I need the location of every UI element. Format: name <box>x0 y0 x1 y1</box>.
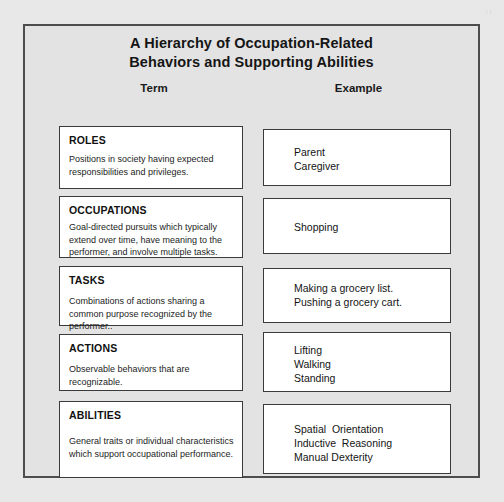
example-text: Parent Caregiver <box>294 145 442 173</box>
column-header-term: Term <box>62 82 246 94</box>
example-text: Lifting Walking Standing <box>294 343 442 385</box>
example-line: Standing <box>294 371 442 385</box>
term-description: Combinations of actions sharing a common… <box>69 295 235 333</box>
term-cell-roles: ROLES Positions in society having expect… <box>59 126 243 189</box>
example-line: Manual Dexterity <box>294 450 442 464</box>
page-edge-bleed-text: | | <box>486 8 504 16</box>
term-cell-tasks: TASKS Combinations of actions sharing a … <box>59 266 243 326</box>
term-title: ACTIONS <box>69 342 117 354</box>
figure-title-line-2: Behaviors and Supporting Abilities <box>25 53 478 72</box>
example-cell-occupations: Shopping <box>263 198 451 254</box>
example-line: Walking <box>294 357 442 371</box>
example-text: Shopping <box>294 220 442 234</box>
term-description: Goal-directed pursuits which typically e… <box>69 221 235 259</box>
term-description: General traits or individual characteris… <box>69 435 235 460</box>
column-header-example: Example <box>265 82 452 94</box>
example-line: Shopping <box>294 220 442 234</box>
example-cell-tasks: Making a grocery list. Pushing a grocery… <box>263 268 451 323</box>
example-text: Spatial Orientation Inductive Reasoning … <box>294 422 442 464</box>
term-cell-abilities: ABILITIES General traits or individual c… <box>59 401 243 478</box>
example-cell-abilities: Spatial Orientation Inductive Reasoning … <box>263 404 451 474</box>
example-line: Making a grocery list. <box>294 281 442 295</box>
example-cell-actions: Lifting Walking Standing <box>263 332 451 392</box>
figure-title: A Hierarchy of Occupation-Related Behavi… <box>25 34 478 72</box>
example-cell-roles: Parent Caregiver <box>263 129 451 186</box>
term-title: OCCUPATIONS <box>69 204 147 216</box>
term-cell-occupations: OCCUPATIONS Goal-directed pursuits which… <box>59 196 243 258</box>
example-text: Making a grocery list. Pushing a grocery… <box>294 281 442 309</box>
example-line: Spatial Orientation <box>294 422 442 436</box>
figure-title-line-1: A Hierarchy of Occupation-Related <box>25 34 478 53</box>
example-line: Caregiver <box>294 159 442 173</box>
example-line: Lifting <box>294 343 442 357</box>
term-description: Observable behaviors that are recognizab… <box>69 363 235 388</box>
figure-frame: A Hierarchy of Occupation-Related Behavi… <box>23 24 480 478</box>
term-title: TASKS <box>69 274 105 286</box>
term-title: ABILITIES <box>69 409 121 421</box>
term-cell-actions: ACTIONS Observable behaviors that are re… <box>59 334 243 391</box>
term-description: Positions in society having expected res… <box>69 153 235 178</box>
example-line: Pushing a grocery cart. <box>294 295 442 309</box>
term-title: ROLES <box>69 134 106 146</box>
example-line: Inductive Reasoning <box>294 436 442 450</box>
example-line: Parent <box>294 145 442 159</box>
